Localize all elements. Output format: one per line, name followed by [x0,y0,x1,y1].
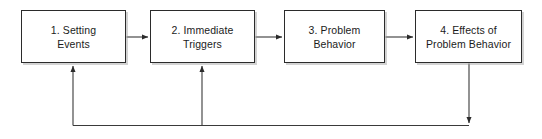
node-setting-events-label: 1. Setting Events [48,23,99,51]
node-immediate-triggers-label: 2. Immediate Triggers [169,23,237,51]
node-problem-behavior-label: 3. Problem Behavior [306,23,364,51]
node-setting-events: 1. Setting Events [21,10,126,63]
node-immediate-triggers: 2. Immediate Triggers [150,10,255,63]
node-effects-of-problem-behavior-label: 4. Effects of Problem Behavior [423,23,514,51]
node-problem-behavior: 3. Problem Behavior [284,10,385,63]
node-effects-of-problem-behavior: 4. Effects of Problem Behavior [415,10,522,63]
behavior-chain-diagram: 1. Setting Events 2. Immediate Triggers … [0,0,542,139]
